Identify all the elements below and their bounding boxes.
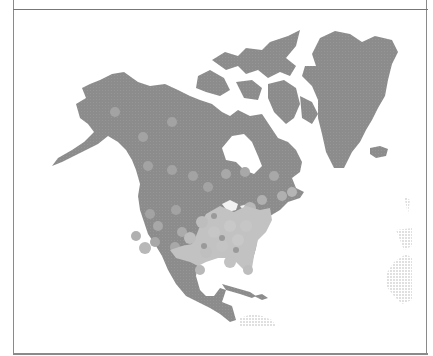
iceland-landmass: [370, 146, 388, 158]
caribbean-islands: [222, 284, 268, 300]
south-america-faint: [240, 314, 276, 326]
africa-faint: [386, 196, 412, 304]
mainland-landmass: [52, 72, 304, 322]
north-america-hexbin-map[interactable]: [14, 10, 427, 353]
panel-title-clipped: [14, 0, 427, 9]
panel-bottom-border: [13, 353, 428, 355]
